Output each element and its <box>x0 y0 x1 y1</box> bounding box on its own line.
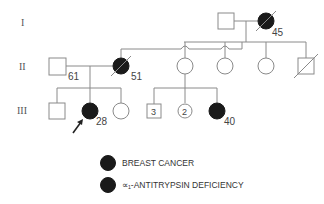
proband-arrow-icon <box>73 119 83 133</box>
age-label: 40 <box>224 116 236 127</box>
individual-iii-1-male[interactable] <box>49 103 65 119</box>
sibship-line-gen-ii <box>121 42 306 58</box>
legend-label-antitrypsin-deficiency: ∝₁-ANTITRYPSIN DEFICIENCY <box>122 180 244 190</box>
legend-breast-cancer-symbol <box>101 156 116 171</box>
generation-iii: 28 3 2 40 <box>49 103 236 127</box>
generation-label-ii: II <box>19 61 26 72</box>
generation-i: 45 <box>218 11 284 42</box>
count-label: 3 <box>151 107 156 117</box>
pedigree-chart: I II III 45 61 51 <box>0 0 324 204</box>
age-label: 28 <box>96 116 108 127</box>
sibship-line-gen-iii <box>57 88 217 104</box>
individual-ii-6-male-deceased[interactable] <box>294 54 318 78</box>
individual-ii-5-female[interactable] <box>258 58 274 74</box>
age-label: 45 <box>272 27 284 38</box>
individual-iii-6-female-affected[interactable] <box>209 103 225 119</box>
generation-label-iii: III <box>17 105 27 116</box>
individual-ii-4-female[interactable] <box>217 58 233 74</box>
legend: BREAST CANCER ∝₁-ANTITRYPSIN DEFICIENCY <box>101 156 244 193</box>
individual-ii-3-female[interactable] <box>177 58 193 74</box>
legend-antitrypsin-symbol <box>101 178 116 193</box>
legend-label-breast-cancer: BREAST CANCER <box>122 158 194 168</box>
generation-ii: 61 51 <box>49 54 318 88</box>
count-label: 2 <box>182 107 187 117</box>
individual-iii-3-female[interactable] <box>113 103 129 119</box>
individual-ii-2-female-affected-deceased[interactable] <box>111 56 131 76</box>
individual-ii-1-male[interactable] <box>49 58 66 75</box>
generation-label-i: I <box>21 17 24 28</box>
age-label: 51 <box>131 71 143 82</box>
individual-i-1-male[interactable] <box>218 13 234 29</box>
age-label: 61 <box>68 71 80 82</box>
